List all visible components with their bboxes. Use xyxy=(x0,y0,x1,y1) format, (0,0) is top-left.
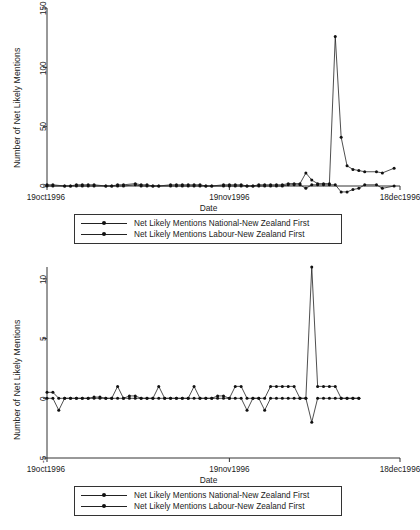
bottom-x-axis-title: Date xyxy=(0,475,417,485)
bottom-x-tick-label: 19nov1996 xyxy=(209,465,250,474)
legend-label-national: Net Likely Mentions National-New Zealand… xyxy=(134,219,309,229)
top-y-tick-label: 50 xyxy=(39,122,48,131)
bottom-y-tick-label: 0 xyxy=(39,396,48,401)
legend-key-labour-icon xyxy=(81,502,127,511)
top-x-axis-title: Date xyxy=(0,203,417,213)
top-y-axis-title: Number of Net Likely Mentions xyxy=(12,48,22,168)
top-y-tick-label: 100 xyxy=(39,61,48,75)
legend-label-national: Net Likely Mentions National-New Zealand… xyxy=(134,491,309,501)
legend-key-labour-icon xyxy=(81,230,127,239)
bottom-y-tick-label: 5 xyxy=(39,336,48,341)
legend-item-labour: Net Likely Mentions Labour-New Zealand F… xyxy=(81,501,335,512)
chart-panel-bottom: Number of Net Likely Mentions Date Net L… xyxy=(0,255,417,530)
bottom-x-tick-label: 18dec1996 xyxy=(380,465,420,474)
legend-item-labour: Net Likely Mentions Labour-New Zealand F… xyxy=(81,229,335,240)
bottom-y-tick-label: 10 xyxy=(39,275,48,284)
legend-key-national-icon xyxy=(81,219,127,228)
bottom-legend: Net Likely Mentions National-New Zealand… xyxy=(74,486,342,516)
chart-panel-top: Number of Net Likely Mentions Date Net L… xyxy=(0,0,417,255)
legend-item-national: Net Likely Mentions National-New Zealand… xyxy=(81,490,335,501)
legend-label-labour: Net Likely Mentions Labour-New Zealand F… xyxy=(134,502,305,512)
top-x-tick-label: 18dec1996 xyxy=(380,193,420,202)
top-x-tick-label: 19oct1996 xyxy=(27,193,65,202)
legend-key-national-icon xyxy=(81,491,127,500)
top-y-tick-label: 150 xyxy=(39,2,48,16)
top-plot-area xyxy=(0,0,417,200)
legend-label-labour: Net Likely Mentions Labour-New Zealand F… xyxy=(134,230,305,240)
bottom-y-axis-title: Number of Net Likely Mentions xyxy=(12,320,22,440)
legend-item-national: Net Likely Mentions National-New Zealand… xyxy=(81,218,335,229)
bottom-y-tick-label: -5 xyxy=(39,456,48,463)
bottom-x-tick-label: 19oct1996 xyxy=(27,465,65,474)
bottom-plot-area xyxy=(0,255,417,470)
top-legend: Net Likely Mentions National-New Zealand… xyxy=(74,214,342,244)
top-x-tick-label: 19nov1996 xyxy=(209,193,250,202)
top-y-tick-label: 0 xyxy=(39,184,48,189)
